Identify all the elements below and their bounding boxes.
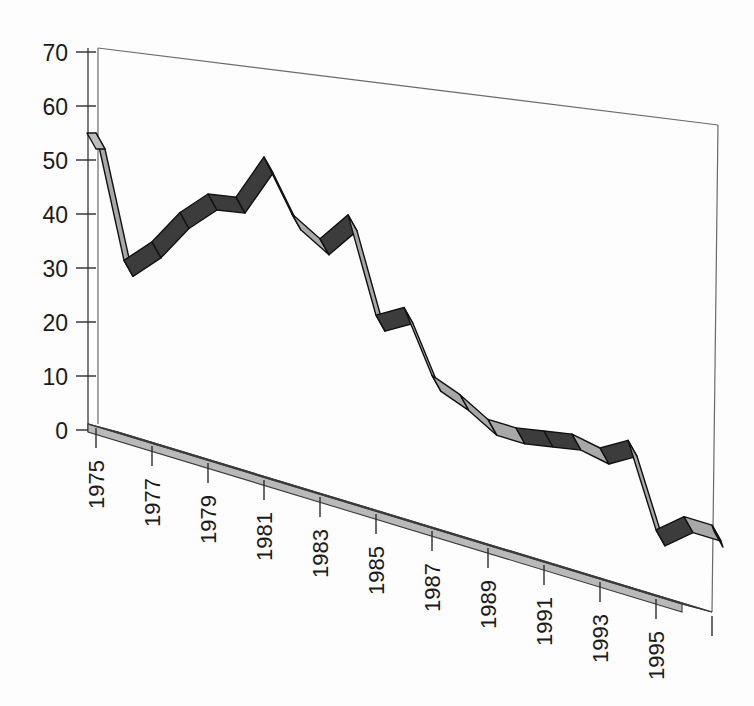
x-tick-label-1995: 1995: [644, 631, 669, 680]
x-axis: 1975 1977 1979 1981 1983 1985 1987 1989 …: [84, 428, 712, 680]
x-axis-tick-labels: 1975 1977 1979 1981 1983 1985 1987 1989 …: [84, 460, 669, 680]
y-tick-label-0: 0: [55, 418, 68, 444]
ribbon-segment-12: [432, 375, 469, 410]
ribbon-segment-7: [292, 214, 329, 255]
x-tick-label-1989: 1989: [476, 580, 501, 629]
y-tick-label-40: 40: [42, 202, 68, 228]
y-axis-tick-labels: 70 60 50 40 30 20 10 0: [42, 40, 68, 444]
wall-top-edge: [98, 48, 718, 125]
line-chart-3d: 70 60 50 40 30 20 10 0: [0, 0, 754, 706]
x-tick-label-1987: 1987: [420, 563, 445, 612]
x-tick-label-1981: 1981: [252, 512, 277, 561]
y-tick-label-10: 10: [42, 364, 68, 390]
x-tick-label-1991: 1991: [532, 597, 557, 646]
y-tick-label-20: 20: [42, 310, 68, 336]
data-series-ribbon: [87, 133, 723, 547]
x-tick-label-1979: 1979: [196, 495, 221, 544]
y-tick-label-60: 60: [42, 94, 68, 120]
x-tick-label-1985: 1985: [364, 546, 389, 595]
y-tick-label-70: 70: [42, 40, 68, 66]
y-tick-label-50: 50: [42, 148, 68, 174]
chart-container: 70 60 50 40 30 20 10 0: [0, 0, 754, 706]
y-axis: 70 60 50 40 30 20 10 0: [42, 40, 96, 444]
ribbon-segment-13: [460, 395, 497, 436]
ribbon-segment-0: [96, 133, 133, 276]
x-tick-label-1975: 1975: [84, 460, 109, 509]
x-tick-label-1977: 1977: [140, 478, 165, 527]
x-tick-label-1983: 1983: [308, 529, 333, 578]
ribbon-start-cap: [87, 133, 105, 149]
x-tick-label-1993: 1993: [588, 614, 613, 663]
y-tick-label-30: 30: [42, 256, 68, 282]
ribbon-segment-10: [376, 308, 413, 332]
y-axis-ticks: [76, 52, 96, 430]
